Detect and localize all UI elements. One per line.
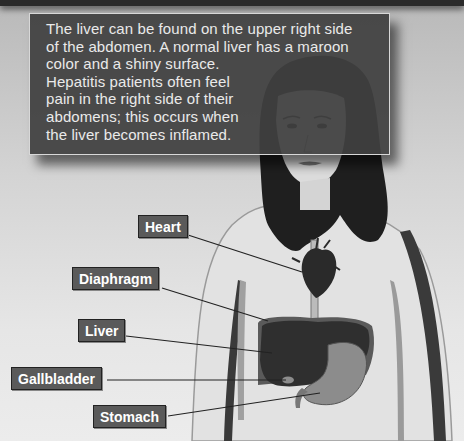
label-diaphragm: Diaphragm [72,267,159,290]
label-gallbladder: Gallbladder [11,367,102,390]
label-stomach: Stomach [93,405,166,428]
label-liver: Liver [78,319,125,342]
info-text: The liver can be found on the upper righ… [46,20,352,143]
label-heart: Heart [138,215,188,238]
info-text-box: The liver can be found on the upper righ… [29,13,390,155]
